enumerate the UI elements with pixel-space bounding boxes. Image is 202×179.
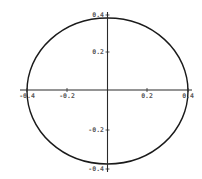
y-tick-label: -0.4 bbox=[88, 165, 104, 173]
x-tick-label: -0.2 bbox=[59, 92, 75, 100]
x-tick-label: -0.4 bbox=[19, 92, 35, 100]
y-tick-label: 0.4 bbox=[92, 11, 104, 19]
y-tick-label: 0.2 bbox=[92, 48, 104, 56]
x-tick-label: 0.4 bbox=[182, 92, 194, 100]
circle-plot: -0.4 -0.2 0.2 0.4 0.4 0.2 -0.2 -0.4 bbox=[0, 0, 202, 179]
y-tick-label: -0.2 bbox=[88, 126, 104, 134]
x-tick-label: 0.2 bbox=[141, 92, 153, 100]
